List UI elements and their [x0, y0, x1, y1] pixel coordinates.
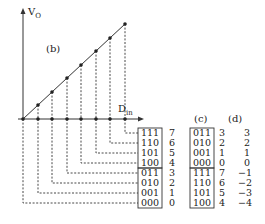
panel-d-label: (d)	[228, 114, 242, 124]
y-axis-label: VO	[28, 7, 41, 21]
code-guides	[23, 119, 138, 203]
panel-c-label: (c)	[194, 114, 207, 124]
x-axis-arrow-icon	[138, 117, 144, 122]
x-axis-label: Din	[118, 104, 133, 118]
panel-b-label: (b)	[46, 44, 60, 54]
y-axis-arrow-icon	[21, 8, 26, 14]
vertical-guides	[38, 24, 125, 119]
